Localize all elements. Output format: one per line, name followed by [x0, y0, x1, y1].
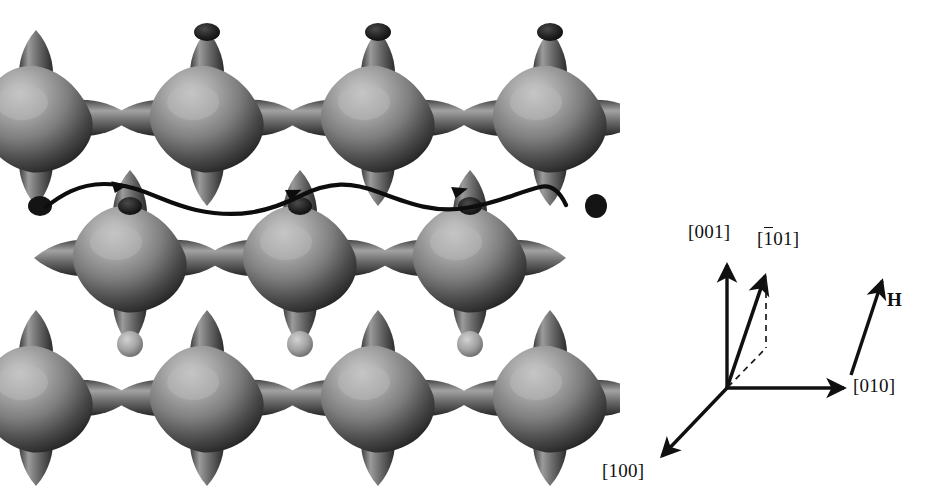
axis-label-001: [001]: [688, 221, 730, 243]
axis-vector-100: [662, 388, 727, 456]
label-bracket-rest: 01]: [773, 228, 799, 249]
fermi-surface-render: [0, 0, 620, 498]
axis-label-101bar: [101]: [757, 228, 799, 250]
crystal-axes-panel: [001] [010] [100] [101] H: [600, 215, 948, 498]
axis-vector-101bar: [727, 276, 765, 388]
axis-label-100: [100]: [602, 460, 644, 482]
magnetic-field-label: H: [887, 289, 902, 311]
label-overbar-digit: 1: [764, 228, 774, 250]
axes-vectors: [600, 215, 948, 498]
axis-label-010: [010]: [853, 375, 895, 397]
fermi-surface-panel: [0, 0, 620, 498]
magnetic-field-vector: [851, 281, 882, 375]
figure-root: [001] [010] [100] [101] H: [0, 0, 948, 498]
